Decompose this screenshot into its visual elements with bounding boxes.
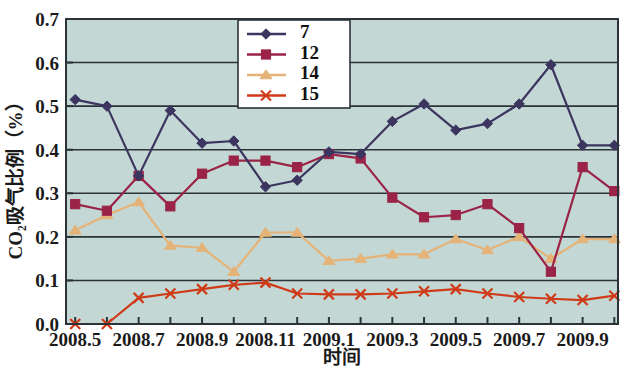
line-chart: 0.00.10.20.30.40.50.60.7 2008.52008.7200… — [0, 0, 622, 371]
chart-page: 0.00.10.20.30.40.50.60.7 2008.52008.7200… — [0, 0, 622, 371]
data-point-marker — [451, 210, 460, 219]
data-point-marker — [483, 200, 492, 209]
x-tick-label: 2009.5 — [430, 329, 482, 350]
legend-label: 12 — [300, 42, 319, 63]
data-point-marker — [261, 50, 270, 59]
data-point-marker — [419, 213, 428, 222]
data-point-marker — [546, 267, 555, 276]
data-point-marker — [261, 156, 270, 165]
x-tick-label: 2008.9 — [176, 329, 228, 350]
chart-svg: 0.00.10.20.30.40.50.60.7 2008.52008.7200… — [0, 0, 622, 371]
x-tick-label: 2008.7 — [113, 329, 166, 350]
data-point-marker — [229, 156, 238, 165]
legend-label: 14 — [300, 62, 320, 83]
x-tick-label: 2009.7 — [493, 329, 546, 350]
x-tick-label: 2008.11 — [235, 329, 296, 350]
data-point-marker — [102, 206, 111, 215]
y-tick-label: 0.3 — [35, 183, 59, 204]
legend: 7121415 — [238, 20, 350, 108]
y-tick-label: 0.4 — [35, 140, 59, 161]
y-tick-label: 0.2 — [35, 227, 59, 248]
data-point-marker — [71, 200, 80, 209]
data-point-marker — [293, 163, 302, 172]
legend-label: 15 — [300, 83, 319, 104]
x-axis-title: 时间 — [323, 347, 361, 368]
data-point-marker — [388, 193, 397, 202]
x-tick-label: 2009.9 — [556, 329, 608, 350]
data-point-marker — [197, 169, 206, 178]
y-tick-label: 0.1 — [35, 270, 59, 291]
x-tick-label: 2009.3 — [366, 329, 418, 350]
data-point-marker — [166, 202, 175, 211]
legend-label: 7 — [300, 21, 310, 42]
y-tick-label: 0.6 — [35, 53, 59, 74]
data-point-marker — [515, 224, 524, 233]
y-axis-title: CO₂吸气比例（%） — [4, 92, 26, 259]
y-tick-label: 0.7 — [35, 9, 59, 30]
x-tick-label: 2008.5 — [49, 329, 101, 350]
y-tick-label: 0.5 — [35, 96, 59, 117]
data-point-marker — [578, 163, 587, 172]
